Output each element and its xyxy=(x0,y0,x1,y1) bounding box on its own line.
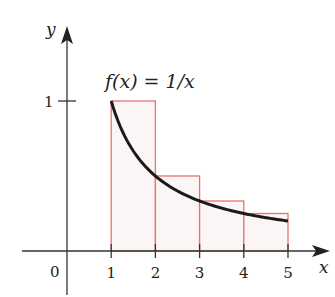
function-label: f(x) = 1/x xyxy=(103,70,195,92)
y-axis-label: y xyxy=(45,19,56,39)
x-tick-label-3: 3 xyxy=(195,264,205,282)
origin-label: 0 xyxy=(50,263,60,281)
bars xyxy=(111,101,288,251)
bar-2 xyxy=(155,176,199,251)
riemann-sum-chart: 12345 1 0 y x f(x) = 1/x xyxy=(0,0,335,297)
y-tick-label-1: 1 xyxy=(44,93,54,111)
x-tick-label-1: 1 xyxy=(106,264,116,282)
x-tick-label-2: 2 xyxy=(151,264,161,282)
x-axis-label: x xyxy=(319,257,329,277)
x-tick-label-4: 4 xyxy=(239,264,249,282)
chart-canvas: 12345 1 0 y x f(x) = 1/x xyxy=(0,0,335,297)
x-tick-label-5: 5 xyxy=(283,264,293,282)
